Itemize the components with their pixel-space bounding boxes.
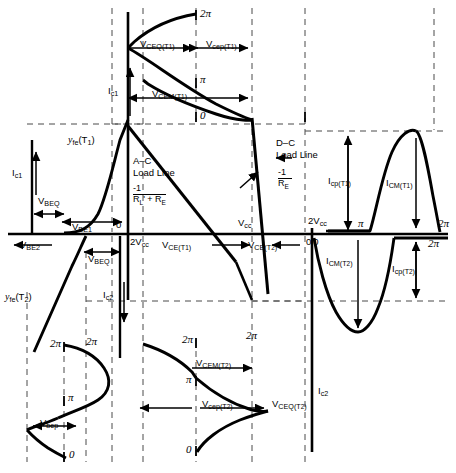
label-I-cp-T1: Icp(T1) (328, 176, 351, 186)
tick-pi-ic-T1: π (358, 218, 364, 229)
label-V-CE-T1: VCE(T1) (162, 240, 191, 250)
tick-2pi-upper-vce: 2π (200, 8, 211, 19)
label-V-CEQ-T1: VCEQ(T1) (140, 39, 175, 49)
tick-2pi-dc-loadline: 2π (246, 330, 257, 341)
label-I-cp-T2: Icp(T2) (392, 264, 415, 274)
dc-load-line (252, 118, 268, 294)
label-I-CM-T1: ICM(T1) (386, 178, 413, 188)
label-yfe-T2: yfe(T2) (5, 292, 32, 302)
label-Vcc-center: Vcc (238, 218, 252, 228)
yfe-T2-curve (34, 236, 86, 352)
label-V-cep-T2: Vcep(T2) (202, 399, 233, 409)
label-V-CEQ-T2: VCEQ(T2) (272, 399, 307, 409)
label-zero-right-pair: 00 (306, 237, 319, 247)
label-origin-zero: 0 (116, 220, 121, 230)
tick-2pi-lower-vce: 2π (182, 334, 193, 345)
tick-zero-upper-vce: 0 (200, 110, 206, 121)
tick-pi-lower-vce: π (186, 374, 192, 385)
label-V-bep: Vbep (40, 418, 58, 428)
figure-canvas: yfe(T1) yfe(T2) Ic1 Ic1 Ic2 Ic2 VBEQ VBE… (0, 0, 456, 473)
vce-T1-waveform (128, 14, 252, 120)
label-V-BE1: VBE1 (72, 222, 92, 232)
tick-zero-lower-vce: 0 (186, 444, 192, 455)
tick-pi-upper-vce: π (200, 74, 206, 85)
tick-zero-vbe: 0 (69, 449, 75, 460)
tick-pi-vbe: π (68, 392, 74, 403)
ic-T2-waveform (314, 238, 448, 332)
label-ic1-mid: Ic1 (108, 86, 118, 96)
dc-load-line-slope: -1 RE (278, 168, 292, 191)
label-ic1-left: Ic1 (12, 168, 22, 178)
label-2Vcc-right: 2Vcc (308, 216, 327, 226)
label-V-BEQ-upper: VBEQ (38, 196, 60, 206)
label-ic2-left: Ic2 (103, 290, 113, 300)
label-yfe-T1: yfe(T1) (68, 135, 95, 145)
tick-2pi-right-axis: 2π (438, 218, 449, 229)
ac-load-line-slope: -1 RL' + RE (133, 184, 166, 207)
label-V-BE2: VBE2 (20, 240, 40, 250)
label-V-cep-T1: Vcep(T1) (206, 39, 237, 49)
label-I-CM-T2: ICM(T2) (326, 256, 353, 266)
label-V-BEQ-lower: VBEQ (88, 254, 110, 264)
label-V-CE-T2: VCE(T2) (248, 240, 277, 250)
label-ic2-right: Ic2 (318, 386, 328, 396)
label-V-CEM-T2: VCEM(T2) (196, 358, 231, 368)
tick-2pi-vbe: 2π (50, 338, 61, 349)
tick-2pi-ic-T2: 2π (428, 238, 439, 249)
small-tick-marks (64, 10, 305, 462)
tick-2pi-yfe-T2: 2π (86, 336, 97, 347)
label-ac-load-line: A–CLoad Line (133, 155, 175, 179)
label-dc-load-line: D–CLoad Line (276, 137, 318, 161)
label-V-CEM-T1: VCEM(T1) (152, 89, 187, 99)
label-2Vcc-left: 2Vcc (130, 237, 149, 247)
